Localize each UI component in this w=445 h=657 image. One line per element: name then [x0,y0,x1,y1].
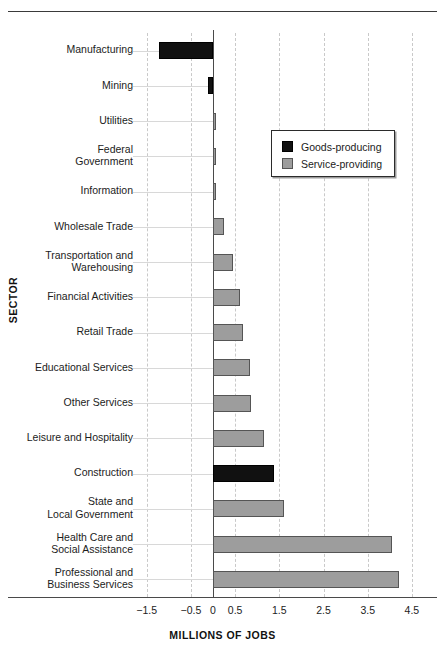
chart-legend: Goods-producing Service-providing [271,130,395,177]
bar [213,500,284,517]
x-tick-label: 2.5 [316,604,331,616]
x-axis-title: MILLIONS OF JOBS [0,629,445,641]
gridline [324,33,325,597]
category-label: Utilities [99,114,133,127]
leader-line [133,121,213,122]
bar [213,218,224,235]
gridline [147,33,148,597]
gridline [191,33,192,597]
leader-line [133,438,213,439]
x-axis-line [8,597,437,598]
category-label: Mining [102,79,133,92]
category-label: Transportation and Warehousing [45,249,133,274]
category-label: Other Services [64,396,133,409]
bar [213,324,243,341]
leader-line [133,474,213,475]
bar [213,395,251,412]
legend-item-service-providing: Service-providing [282,155,394,172]
leader-line [133,403,213,404]
bar [213,359,250,376]
leader-line [133,544,213,545]
legend-label-goods-producing: Goods-producing [301,141,382,153]
leader-line [133,86,213,87]
category-label: Health Care and Social Assistance [51,531,133,556]
category-label: Wholesale Trade [54,220,133,233]
category-label: Federal Government [75,143,133,168]
category-label: Leisure and Hospitality [27,431,133,444]
bar [213,254,233,271]
leader-line [133,579,213,580]
leader-line [133,262,213,263]
category-label: Construction [74,466,133,479]
bar [213,289,240,306]
bar-chart: ManufacturingMiningUtilitiesFederal Gove… [0,0,445,657]
category-label: State and Local Government [47,495,133,520]
category-label: Retail Trade [76,325,133,338]
bar [213,183,216,200]
x-tick-label: −0.5 [181,604,202,616]
bar [208,77,213,94]
bar [213,148,216,165]
x-tick-label: 1.5 [272,604,287,616]
leader-line [133,192,213,193]
y-axis-title: SECTOR [7,277,19,323]
bar [213,536,392,553]
bar [213,465,274,482]
leader-line [133,509,213,510]
plot-area: ManufacturingMiningUtilitiesFederal Gove… [0,0,445,657]
leader-line [133,297,213,298]
category-label: Information [80,184,133,197]
x-tick-label: 3.5 [360,604,375,616]
x-tick-label: 0.5 [228,604,243,616]
category-label: Financial Activities [47,290,133,303]
bar [159,42,213,59]
x-tick-label: 4.5 [405,604,420,616]
x-tick-label: −1.5 [136,604,157,616]
category-label: Educational Services [35,361,133,374]
category-label: Manufacturing [66,43,133,56]
leader-line [133,333,213,334]
x-tick-label: 0 [210,604,216,616]
category-label: Professional and Business Services [47,566,133,591]
gridline [368,33,369,597]
leader-line [133,156,213,157]
bar [213,430,264,447]
legend-label-service-providing: Service-providing [301,158,382,170]
legend-item-goods-producing: Goods-producing [282,138,394,155]
leader-line [133,227,213,228]
bar [213,571,399,588]
legend-swatch-goods-producing [282,141,293,152]
bar [213,113,216,130]
legend-swatch-service-providing [282,158,293,169]
leader-line [133,368,213,369]
gridline [412,33,413,597]
